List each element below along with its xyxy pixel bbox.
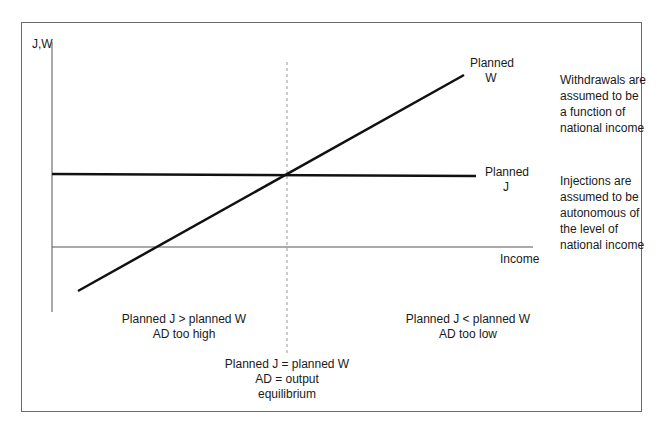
region-right-line1: Planned J < planned W	[388, 312, 548, 327]
injections-note-line: Injections are	[560, 173, 644, 189]
withdrawals-note-line: assumed to be	[560, 88, 646, 104]
planned-j-line	[52, 174, 476, 176]
withdrawals-note: Withdrawals are assumed to be a function…	[560, 72, 646, 136]
injections-note-line: assumed to be	[560, 189, 644, 205]
planned-w-label-line2: W	[470, 71, 512, 86]
planned-j-label-line1: Planned	[485, 165, 527, 180]
injections-note: Injections are assumed to be autonomous …	[560, 173, 644, 253]
equilibrium-line3: equilibrium	[207, 387, 367, 402]
withdrawals-note-line: a function of	[560, 104, 646, 120]
region-right-label: Planned J < planned W AD too low	[388, 312, 548, 342]
y-axis-label: J,W	[32, 37, 53, 52]
planned-j-label-line2: J	[485, 180, 527, 195]
withdrawals-note-line: national income	[560, 120, 646, 136]
equilibrium-line1: Planned J = planned W	[207, 357, 367, 372]
injections-note-line: national income	[560, 237, 644, 253]
planned-w-label-line1: Planned	[470, 56, 512, 71]
planned-w-label: Planned W	[470, 56, 512, 86]
planned-w-line	[78, 75, 464, 291]
injections-note-line: the level of	[560, 221, 644, 237]
x-axis-label: Income	[500, 252, 539, 267]
region-left-line2: AD too high	[104, 327, 264, 342]
planned-j-label: Planned J	[485, 165, 527, 195]
equilibrium-label: Planned J = planned W AD = output equili…	[207, 357, 367, 402]
withdrawals-note-line: Withdrawals are	[560, 72, 646, 88]
equilibrium-line2: AD = output	[207, 372, 367, 387]
region-left-label: Planned J > planned W AD too high	[104, 312, 264, 342]
region-left-line1: Planned J > planned W	[104, 312, 264, 327]
injections-note-line: autonomous of	[560, 205, 644, 221]
region-right-line2: AD too low	[388, 327, 548, 342]
